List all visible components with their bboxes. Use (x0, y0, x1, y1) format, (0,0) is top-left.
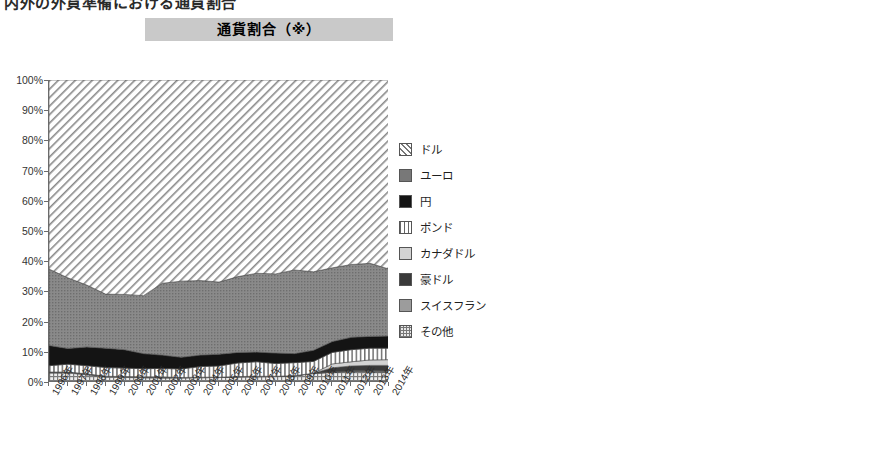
left-y-tick-label: 0% (0, 376, 43, 388)
legend-swatch-icon (399, 325, 412, 338)
legend-label: カナダドル (420, 245, 475, 261)
left-y-tick-label: 70% (0, 165, 43, 177)
left-y-tick-label: 30% (0, 285, 43, 297)
left-y-tick-label: 40% (0, 255, 43, 267)
left-y-tick-label: 60% (0, 195, 43, 207)
left-chart-panel: 通貨割合（※） 100%90%80%70%60%50%40%30%20%10%0… (0, 0, 470, 453)
left-plot-area (48, 80, 388, 382)
left-y-tick-label: 90% (0, 104, 43, 116)
legend-label: その他 (420, 323, 453, 339)
legend-swatch-icon (399, 169, 412, 182)
left-y-tick-label: 80% (0, 134, 43, 146)
legend-label: 豪ドル (420, 271, 453, 287)
legend-swatch-icon (399, 195, 412, 208)
right-chart-panel: 外貨準備の推移 (bl US$ ) 14,00012,00010,0008,00… (470, 0, 892, 453)
left-y-tick-label: 100% (0, 74, 43, 86)
left-y-tick-label: 10% (0, 346, 43, 358)
legend-label: 円 (420, 193, 431, 209)
legend-label: ポンド (420, 219, 453, 235)
legend-label: ドル (420, 141, 442, 157)
legend-swatch-icon (399, 299, 412, 312)
left-y-tick-label: 20% (0, 316, 43, 328)
legend-swatch-icon (399, 247, 412, 260)
area-series-ドル (49, 80, 388, 296)
left-y-tick-label: 50% (0, 225, 43, 237)
legend-swatch-icon (399, 143, 412, 156)
legend-swatch-icon (399, 221, 412, 234)
figure-root: 内外の外貨準備における通貨割合 通貨割合（※） 100%90%80%70%60%… (0, 0, 892, 453)
currency-share-area-chart (49, 80, 388, 382)
legend-label: ユーロ (420, 167, 453, 183)
legend-swatch-icon (399, 273, 412, 286)
left-chart-title: 通貨割合（※） (145, 18, 393, 41)
